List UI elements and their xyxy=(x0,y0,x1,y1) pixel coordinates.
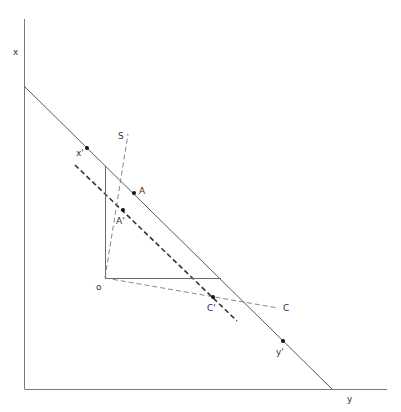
budget-line xyxy=(24,86,332,389)
label-S: S xyxy=(118,131,124,141)
label-C: C xyxy=(283,303,289,313)
label-y-prime: y' xyxy=(276,347,284,357)
label-x-prime: x' xyxy=(76,148,84,158)
point-A-prime xyxy=(121,208,125,212)
point-A xyxy=(132,191,136,195)
point-y-prime xyxy=(281,339,285,343)
label-C-prime: C' xyxy=(207,303,216,313)
label-A-prime: A' xyxy=(116,216,125,226)
label-A: A xyxy=(139,186,146,196)
point-x-prime xyxy=(85,146,89,150)
economic-diagram: x y x' S A A' o C' C y' xyxy=(0,0,401,412)
label-origin: o xyxy=(96,282,102,292)
label-vertical-axis: x xyxy=(13,47,19,57)
label-horizontal-axis: y xyxy=(347,394,353,404)
ray-C xyxy=(105,278,278,308)
ray-S xyxy=(105,134,128,278)
point-C-prime xyxy=(211,295,215,299)
